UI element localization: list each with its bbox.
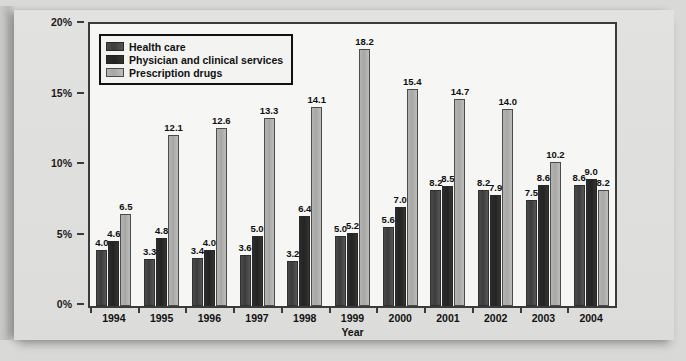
legend-item-label: Prescription drugs bbox=[129, 67, 222, 79]
bar[interactable] bbox=[335, 236, 346, 307]
bar[interactable] bbox=[430, 190, 441, 306]
y-axis: 0%5%10%15%20% bbox=[14, 22, 84, 308]
bar-chart: 0%5%10%15%20% 4.04.66.53.34.812.13.44.01… bbox=[14, 10, 674, 340]
y-axis-tick-label: 20% bbox=[51, 16, 72, 28]
x-axis-title: Year bbox=[88, 326, 617, 338]
bar[interactable] bbox=[120, 214, 131, 306]
bar-value-label: 6.5 bbox=[115, 201, 136, 212]
bar[interactable] bbox=[526, 200, 537, 306]
bar-group: 7.58.610.2 bbox=[520, 24, 568, 306]
bar-group: 5.67.015.4 bbox=[376, 24, 424, 306]
page-left-gutter bbox=[0, 6, 15, 340]
bar[interactable] bbox=[538, 185, 549, 306]
bar[interactable] bbox=[240, 255, 251, 306]
bar[interactable] bbox=[478, 190, 489, 306]
bar[interactable] bbox=[502, 109, 513, 306]
y-axis-tick-label: 15% bbox=[51, 87, 72, 99]
legend-item-health-care: Health care bbox=[106, 40, 283, 53]
bar[interactable] bbox=[359, 49, 370, 306]
bar-group: 8.69.08.2 bbox=[567, 24, 615, 306]
bar-value-label: 15.4 bbox=[402, 76, 423, 87]
y-axis-tick-label: 0% bbox=[57, 298, 72, 310]
bar[interactable] bbox=[490, 195, 501, 306]
bar[interactable] bbox=[395, 207, 406, 306]
x-axis-tick-label: 2004 bbox=[579, 312, 602, 324]
bar[interactable] bbox=[550, 162, 561, 306]
bar[interactable] bbox=[252, 236, 263, 307]
bar[interactable] bbox=[598, 190, 609, 306]
bar-value-label: 14.0 bbox=[497, 96, 518, 107]
bar-value-label: 13.3 bbox=[259, 105, 280, 116]
legend-swatch-icon bbox=[106, 55, 124, 64]
bar-value-label: 14.7 bbox=[449, 86, 470, 97]
bar[interactable] bbox=[264, 118, 275, 306]
bar-value-label: 14.1 bbox=[306, 94, 327, 105]
bar[interactable] bbox=[454, 99, 465, 306]
x-axis-tick-label: 1999 bbox=[341, 312, 364, 324]
legend-item-physician-and-clinical-services: Physician and clinical services bbox=[106, 53, 283, 66]
bar[interactable] bbox=[216, 128, 227, 306]
bar[interactable] bbox=[144, 259, 155, 306]
bar[interactable] bbox=[192, 258, 203, 306]
x-axis-tick-label: 1994 bbox=[102, 312, 125, 324]
bar[interactable] bbox=[574, 185, 585, 306]
x-axis-tick-label: 2000 bbox=[389, 312, 412, 324]
y-axis-tick-mark bbox=[77, 303, 84, 305]
legend-swatch-icon bbox=[106, 42, 124, 51]
x-axis-tick-label: 1998 bbox=[293, 312, 316, 324]
x-axis-tick-label: 1996 bbox=[198, 312, 221, 324]
bar-group: 8.28.514.7 bbox=[424, 24, 472, 306]
legend-item-prescription-drugs: Prescription drugs bbox=[106, 66, 283, 79]
bar[interactable] bbox=[383, 227, 394, 306]
legend-swatch-icon bbox=[106, 68, 124, 77]
y-axis-tick-mark bbox=[77, 92, 84, 94]
bar[interactable] bbox=[347, 233, 358, 306]
bar-value-label: 12.6 bbox=[211, 115, 232, 126]
bar[interactable] bbox=[287, 261, 298, 306]
x-axis-tick-label: 2003 bbox=[532, 312, 555, 324]
bar[interactable] bbox=[586, 179, 597, 306]
bar-value-label: 9.0 bbox=[581, 166, 602, 177]
y-axis-tick-label: 10% bbox=[51, 157, 72, 169]
x-axis-tick-label: 1997 bbox=[245, 312, 268, 324]
bar[interactable] bbox=[311, 107, 322, 306]
y-axis-tick-mark bbox=[77, 162, 84, 164]
bar-value-label: 12.1 bbox=[163, 122, 184, 133]
bar-value-label: 18.2 bbox=[354, 36, 375, 47]
bar[interactable] bbox=[96, 250, 107, 306]
bar[interactable] bbox=[204, 250, 215, 306]
bar[interactable] bbox=[168, 135, 179, 306]
legend-item-label: Health care bbox=[129, 41, 186, 53]
bar[interactable] bbox=[407, 89, 418, 306]
bar-value-label: 8.2 bbox=[593, 177, 614, 188]
chart-legend: Health care Physician and clinical servi… bbox=[99, 34, 293, 85]
bar[interactable] bbox=[108, 241, 119, 306]
bar[interactable] bbox=[156, 238, 167, 306]
bar[interactable] bbox=[442, 186, 453, 306]
x-axis-tick-label: 2002 bbox=[484, 312, 507, 324]
bar[interactable] bbox=[299, 216, 310, 306]
y-axis-tick-mark bbox=[77, 21, 84, 23]
x-axis-tick-label: 1995 bbox=[150, 312, 173, 324]
bar-group: 5.05.218.2 bbox=[329, 24, 377, 306]
x-axis-tick-label: 2001 bbox=[436, 312, 459, 324]
legend-item-label: Physician and clinical services bbox=[129, 54, 283, 66]
bar-group: 8.27.914.0 bbox=[472, 24, 520, 306]
y-axis-tick-mark bbox=[77, 233, 84, 235]
y-axis-tick-label: 5% bbox=[57, 228, 72, 240]
bar-value-label: 10.2 bbox=[545, 149, 566, 160]
